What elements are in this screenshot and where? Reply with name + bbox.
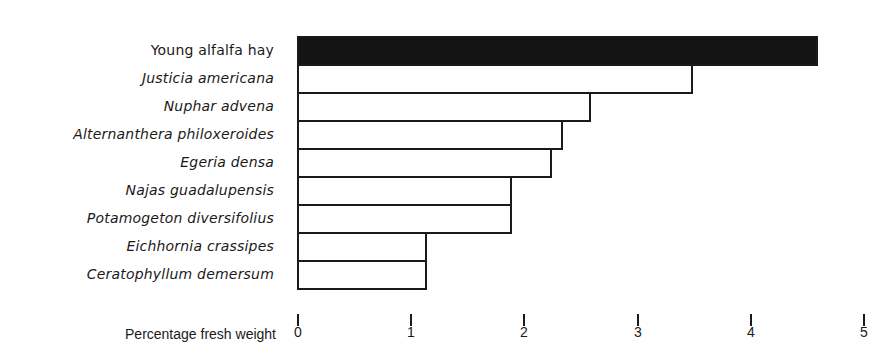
x-tick-label: 5 (854, 324, 874, 340)
category-label: Najas guadalupensis (126, 182, 274, 198)
category-label: Justicia americana (142, 70, 274, 86)
x-axis-title: Percentage fresh weight (125, 326, 276, 342)
bar (297, 148, 552, 178)
bar (297, 36, 818, 66)
x-tick-label: 3 (628, 324, 648, 340)
bar (297, 260, 427, 290)
horizontal-bar-chart: Young alfalfa hayJusticia americanaNupha… (0, 0, 894, 360)
category-label: Eichhornia crassipes (126, 238, 274, 254)
bar (297, 64, 693, 94)
x-tick-label: 0 (288, 324, 308, 340)
bar (297, 92, 591, 122)
bar (297, 232, 427, 262)
category-label: Nuphar advena (164, 98, 274, 114)
category-label: Young alfalfa hay (151, 42, 274, 58)
category-label: Ceratophyllum demersum (87, 266, 274, 282)
category-label: Alternanthera philoxeroides (73, 126, 274, 142)
bar (297, 204, 512, 234)
bar (297, 176, 512, 206)
bar (297, 120, 563, 150)
x-tick-label: 1 (401, 324, 421, 340)
category-label: Egeria densa (180, 154, 274, 170)
x-tick-label: 4 (741, 324, 761, 340)
category-label: Potamogeton diversifolius (87, 210, 274, 226)
x-tick-label: 2 (514, 324, 534, 340)
